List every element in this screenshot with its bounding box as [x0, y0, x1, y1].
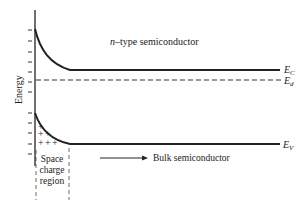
y-axis-label: Energy	[13, 75, 24, 104]
bulk-arrow	[100, 156, 148, 161]
space-charge-label: Space charge region	[39, 154, 64, 186]
bulk-label: Bulk semiconductor	[153, 153, 231, 163]
svg-text:charge: charge	[39, 165, 64, 175]
svg-text:Space: Space	[41, 154, 64, 164]
svg-text:+: +	[38, 137, 44, 148]
valence-band-curve	[35, 113, 280, 144]
svg-text:+: +	[45, 137, 51, 148]
svg-text:region: region	[40, 176, 65, 186]
ev-label: EV	[282, 139, 294, 152]
band-diagram: Energy n–type semiconductor EC Ed EV + +…	[0, 0, 297, 208]
positive-charges: + + + + + +	[38, 121, 58, 148]
axis-ticks	[28, 30, 32, 154]
diagram-title: n–type semiconductor	[110, 36, 199, 47]
svg-text:+: +	[52, 137, 58, 148]
